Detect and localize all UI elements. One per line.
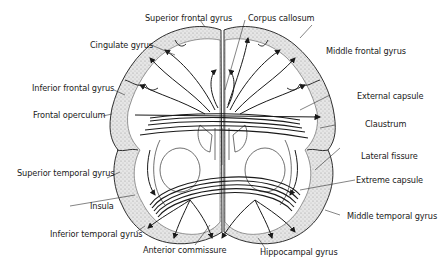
label-anterior-commissure: Anterior commissure <box>143 245 226 255</box>
label-external-capsule: External capsule <box>357 91 423 101</box>
label-superior-frontal-gyrus: Superior frontal gyrus <box>145 13 232 23</box>
label-cingulate-gyrus: Cingulate gyrus <box>90 40 153 50</box>
label-extreme-capsule: Extreme capsule <box>356 175 423 185</box>
label-insula: Insula <box>90 201 114 211</box>
label-middle-frontal-gyrus: Middle frontal gyrus <box>326 46 406 56</box>
label-middle-temporal-gyrus: Middle temporal gyrus <box>347 211 437 221</box>
label-lateral-fissure: Lateral fissure <box>361 151 418 161</box>
label-claustrum: Claustrum <box>365 119 406 129</box>
brain-diagram: Superior frontal gyrus Corpus callosum C… <box>0 0 445 269</box>
label-hippocampal-gyrus: Hippocampal gyrus <box>260 247 338 257</box>
label-corpus-callosum: Corpus callosum <box>248 13 314 23</box>
label-superior-temporal-gyrus: Superior temporal gyrus <box>17 168 115 178</box>
label-inferior-temporal-gyrus: Inferior temporal gyrus <box>50 229 142 239</box>
cortex-outline <box>110 26 335 243</box>
label-inferior-frontal-gyrus: Inferior frontal gyrus <box>32 83 114 93</box>
label-frontal-operculum: Frontal operculum <box>33 110 105 120</box>
